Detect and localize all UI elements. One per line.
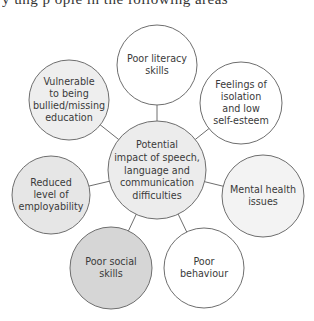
- node-vulnerable-bullied-label-line: bullied/missing: [33, 100, 105, 111]
- node-poor-social-skills: Poor socialskills: [70, 227, 152, 309]
- node-feelings-of-isolation-label-line: and low: [222, 103, 260, 114]
- node-vulnerable-bullied-label-line: education: [45, 112, 93, 123]
- node-vulnerable-bullied: Vulnerableto beingbullied/missingeducati…: [29, 60, 109, 140]
- node-poor-social-skills-label-line: Poor social: [85, 256, 137, 267]
- node-center-label-line: difficulties: [132, 190, 181, 201]
- node-poor-behaviour-label-line: Poor: [193, 256, 214, 267]
- node-center-label-line: communication: [120, 177, 194, 188]
- node-center-label-line: Potential: [136, 139, 178, 150]
- node-poor-social-skills-label-line: skills: [99, 268, 123, 279]
- node-center: Potentialimpact of speech,language andco…: [108, 121, 206, 219]
- node-poor-literacy-skills-label-line: skills: [145, 65, 169, 76]
- node-poor-literacy-skills: Poor literacyskills: [117, 25, 197, 105]
- node-poor-behaviour-label-line: behaviour: [180, 268, 228, 279]
- node-feelings-of-isolation-label-line: Feelings of: [215, 79, 267, 90]
- node-center-label-line: language and: [124, 165, 190, 176]
- center-node: Potentialimpact of speech,language andco…: [108, 121, 206, 219]
- node-reduced-employability-label-line: level of: [33, 189, 69, 200]
- node-vulnerable-bullied-label-line: Vulnerable: [43, 76, 94, 87]
- node-feelings-of-isolation-label-line: isolation: [221, 91, 261, 102]
- node-poor-behaviour: Poorbehaviour: [164, 228, 244, 308]
- mind-map-diagram: Poor literacyskillsFeelings ofisolationa…: [0, 0, 314, 321]
- node-poor-literacy-skills-label-line: Poor literacy: [127, 53, 187, 64]
- node-reduced-employability: Reducedlevel ofemployability: [12, 156, 90, 234]
- node-reduced-employability-label-line: employability: [19, 201, 84, 212]
- node-mental-health-issues-label-line: issues: [248, 196, 278, 207]
- node-feelings-of-isolation-label-line: self-esteem: [213, 115, 269, 126]
- node-feelings-of-isolation: Feelings ofisolationand lowself-esteem: [200, 62, 282, 144]
- node-mental-health-issues: Mental healthissues: [222, 155, 304, 237]
- node-vulnerable-bullied-label-line: to being: [49, 88, 89, 99]
- node-center-label-line: impact of speech,: [114, 152, 200, 163]
- node-reduced-employability-label-line: Reduced: [30, 177, 72, 188]
- node-mental-health-issues-label-line: Mental health: [230, 184, 296, 195]
